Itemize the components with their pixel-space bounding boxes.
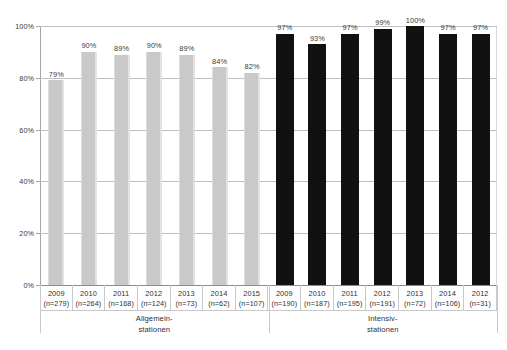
bar[interactable] <box>244 73 260 285</box>
bar[interactable] <box>472 34 490 285</box>
category-sample-size-label: (n=72) <box>404 299 426 308</box>
category-year-label: 2009 <box>48 289 65 298</box>
bar-value-label: 89% <box>114 44 129 53</box>
category-label-cell: 2013(n=72) <box>399 285 432 311</box>
category-sample-size-label: (n=279) <box>43 299 69 308</box>
bar[interactable] <box>276 34 294 285</box>
group-label-line2: stationen <box>109 325 199 336</box>
category-label-cell: 2015(n=107) <box>236 285 269 311</box>
bar-value-label: 97% <box>277 23 292 32</box>
bar-cell: 82% <box>236 26 269 285</box>
category-sample-size-label: (n=187) <box>304 299 330 308</box>
category-year-label: 2014 <box>439 289 456 298</box>
bar-value-label: 99% <box>375 18 390 27</box>
bar-cell: 89% <box>105 26 138 285</box>
bar-value-label: 79% <box>49 70 64 79</box>
category-label-cell: 2012(n=31) <box>464 285 497 311</box>
bar-value-label: 90% <box>147 41 162 50</box>
category-label-cell: 2012(n=191) <box>366 285 399 311</box>
category-sample-size-label: (n=31) <box>469 299 491 308</box>
category-sample-size-label: (n=106) <box>435 299 461 308</box>
category-sample-size-label: (n=62) <box>208 299 230 308</box>
bar[interactable] <box>146 52 162 285</box>
category-label-cell: 2009(n=190) <box>269 285 302 311</box>
bar-cell: 89% <box>171 26 204 285</box>
category-sample-size-label: (n=190) <box>271 299 297 308</box>
y-axis-tick-label: 20% <box>0 229 34 238</box>
category-year-label: 2012 <box>145 289 162 298</box>
group-boundary-tick <box>269 285 270 333</box>
category-year-label: 2011 <box>113 289 129 298</box>
y-axis-tick-label: 60% <box>0 125 34 134</box>
bar[interactable] <box>114 55 130 286</box>
category-label-cell: 2012(n=124) <box>138 285 171 311</box>
category-year-label: 2013 <box>178 289 195 298</box>
bar-cell: 99% <box>366 26 399 285</box>
bar-cell: 79% <box>40 26 73 285</box>
bar-cell: 93% <box>301 26 334 285</box>
group-label-allgemeinstationen: Allgemein-stationen <box>109 314 199 335</box>
bar-cell: 90% <box>138 26 171 285</box>
group-label-intensivstationen: Intensiv-stationen <box>338 314 428 335</box>
category-year-label: 2012 <box>374 289 391 298</box>
bar-cell: 97% <box>334 26 367 285</box>
category-year-label: 2011 <box>341 289 357 298</box>
bar[interactable] <box>212 67 228 285</box>
category-label-cell: 2010(n=264) <box>73 285 106 311</box>
bar-value-label: 82% <box>245 62 260 71</box>
category-sample-size-label: (n=107) <box>239 299 265 308</box>
category-sample-size-label: (n=73) <box>176 299 198 308</box>
bar-value-label: 97% <box>473 23 488 32</box>
bar-cell: 100% <box>399 26 432 285</box>
category-sample-size-label: (n=168) <box>108 299 134 308</box>
category-year-label: 2010 <box>80 289 97 298</box>
bar-cell: 97% <box>432 26 465 285</box>
y-axis-tick-label: 80% <box>0 73 34 82</box>
bar[interactable] <box>48 80 64 285</box>
category-label-cell: 2011(n=195) <box>334 285 367 311</box>
group-boundary-tick <box>40 285 41 333</box>
group-label-line2: stationen <box>338 325 428 336</box>
bar-cell: 90% <box>73 26 106 285</box>
bar-cell: 97% <box>269 26 302 285</box>
y-axis-tick-label: 100% <box>0 22 34 31</box>
bar[interactable] <box>439 34 457 285</box>
category-year-label: 2012 <box>472 289 489 298</box>
category-label-cell: 2014(n=106) <box>432 285 465 311</box>
category-year-label: 2010 <box>309 289 326 298</box>
bars-layer: 79%90%89%90%89%84%82%97%93%97%99%100%97%… <box>40 26 497 285</box>
category-year-label: 2009 <box>276 289 293 298</box>
y-axis-tick-label: 0% <box>0 281 34 290</box>
group-label-line1: Allgemein- <box>109 314 199 325</box>
bar-value-label: 93% <box>310 34 325 43</box>
y-axis-tick-label: 40% <box>0 177 34 186</box>
bar-cell: 97% <box>464 26 497 285</box>
bar-cell: 84% <box>203 26 236 285</box>
bar[interactable] <box>406 26 424 285</box>
category-sample-size-label: (n=191) <box>369 299 395 308</box>
category-year-label: 2015 <box>243 289 260 298</box>
bar-value-label: 100% <box>406 16 425 25</box>
category-year-label: 2013 <box>406 289 423 298</box>
category-year-label: 2014 <box>211 289 228 298</box>
group-label-line1: Intensiv- <box>338 314 428 325</box>
bar-value-label: 97% <box>440 23 455 32</box>
bar[interactable] <box>341 34 359 285</box>
bar[interactable] <box>81 52 97 285</box>
category-label-cell: 2011(n=168) <box>105 285 138 311</box>
category-sample-size-label: (n=124) <box>141 299 167 308</box>
category-label-cell: 2014(n=62) <box>203 285 236 311</box>
category-sample-size-label: (n=195) <box>337 299 363 308</box>
bar-value-label: 84% <box>212 57 227 66</box>
bar-value-label: 97% <box>343 23 358 32</box>
bar[interactable] <box>308 44 326 285</box>
bar-value-label: 89% <box>179 44 194 53</box>
category-label-cell: 2009(n=279) <box>40 285 73 311</box>
bar[interactable] <box>179 55 195 286</box>
category-sample-size-label: (n=264) <box>76 299 102 308</box>
bar-chart: 100%80%60%40%20%0% 79%90%89%90%89%84%82%… <box>0 0 507 350</box>
bar-value-label: 90% <box>81 41 96 50</box>
category-label-cell: 2010(n=187) <box>301 285 334 311</box>
group-boundary-tick <box>497 285 498 333</box>
bar[interactable] <box>374 29 392 285</box>
